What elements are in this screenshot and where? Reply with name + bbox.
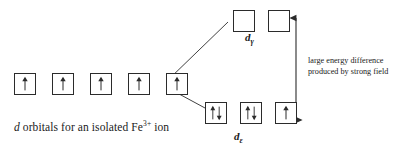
free-ion-orbital-box xyxy=(128,73,150,95)
d-gamma-orbital-box xyxy=(268,10,290,32)
free-ion-orbital-box xyxy=(14,73,36,95)
d-epsilon-orbital-box xyxy=(275,102,297,124)
free-ion-caption-text: orbitals for an isolated Fe xyxy=(20,121,143,133)
d-gamma-label-subscript: γ xyxy=(251,37,254,46)
electron-spin-up-icon xyxy=(15,74,35,94)
electron-spin-pair-icon xyxy=(206,103,226,123)
d-epsilon-level-label: dε xyxy=(234,130,243,145)
annotation-line-2: produced by strong field xyxy=(308,67,388,78)
free-ion-orbital-box xyxy=(52,73,74,95)
electron-spin-up-icon xyxy=(53,74,73,94)
electron-spin-up-icon xyxy=(167,74,187,94)
electron-spin-up-icon xyxy=(276,103,296,123)
free-ion-caption-end: ion xyxy=(151,121,169,133)
d-epsilon-orbital-box xyxy=(240,102,262,124)
free-ion-orbital-box xyxy=(90,73,112,95)
energy-difference-annotation: large energy difference produced by stro… xyxy=(308,56,388,77)
connector-line-upper xyxy=(168,22,228,80)
free-ion-orbital-box xyxy=(166,73,188,95)
electron-spin-up-icon xyxy=(129,74,149,94)
d-epsilon-orbital-box xyxy=(205,102,227,124)
d-gamma-level-label: dγ xyxy=(245,31,254,46)
annotation-line-1: large energy difference xyxy=(308,56,388,67)
d-gamma-orbital-box xyxy=(233,10,255,32)
electron-spin-up-icon xyxy=(91,74,111,94)
crystal-field-splitting-diagram: d orbitals for an isolated Fe3+ ion dγ d… xyxy=(0,0,403,151)
free-ion-caption: d orbitals for an isolated Fe3+ ion xyxy=(14,119,169,133)
d-epsilon-label-subscript: ε xyxy=(240,136,243,145)
electron-spin-pair-icon xyxy=(241,103,261,123)
